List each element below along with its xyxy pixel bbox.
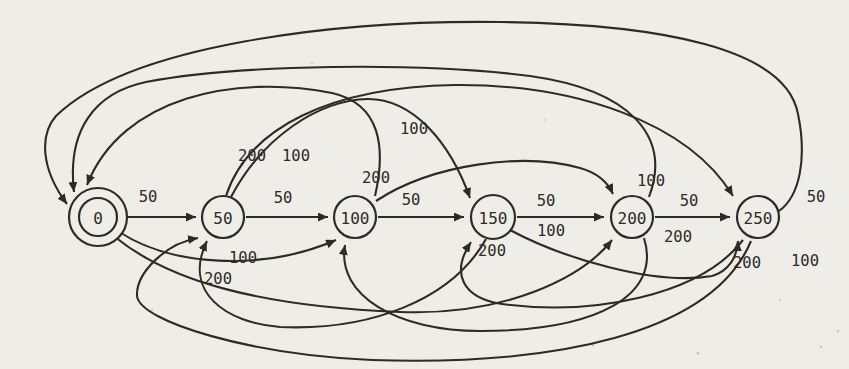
transition-50-100: 50 bbox=[246, 189, 328, 217]
transition-label-200-0: 100 bbox=[400, 120, 428, 138]
state-node-250: 250 bbox=[737, 196, 779, 238]
transition-0-50: 50 bbox=[128, 188, 196, 217]
transition-arrow-250-0 bbox=[45, 22, 802, 211]
state-label-250: 250 bbox=[744, 209, 773, 228]
transition-150-200: 50 bbox=[517, 192, 604, 217]
transition-label-100-0: 200 bbox=[362, 169, 390, 187]
transition-100-0: 200 bbox=[87, 87, 390, 196]
state-node-200: 200 bbox=[611, 196, 653, 238]
transition-label-150-200: 50 bbox=[537, 192, 556, 210]
state-label-0: 0 bbox=[93, 209, 103, 228]
state-label-50: 50 bbox=[213, 209, 232, 228]
state-label-100: 100 bbox=[341, 209, 370, 228]
state-node-150: 150 bbox=[471, 195, 515, 239]
paper-speck bbox=[544, 119, 546, 121]
paper-speck bbox=[696, 351, 699, 354]
transition-200-250: 50 bbox=[655, 192, 730, 217]
transition-label-100-150: 50 bbox=[402, 191, 421, 209]
transition-label-250-150: 200 bbox=[733, 254, 761, 272]
paper-speck bbox=[837, 330, 840, 333]
state-label-150: 150 bbox=[479, 209, 508, 228]
paper-speck bbox=[311, 62, 313, 64]
transition-label-50-100: 50 bbox=[274, 189, 293, 207]
transition-0-200: 200 bbox=[115, 237, 612, 312]
transition-arrow-50-150 bbox=[231, 99, 470, 198]
transition-label-50-250: 200 bbox=[238, 147, 266, 165]
transition-label-250-0: 50 bbox=[807, 188, 826, 206]
transition-50-150: 100 bbox=[231, 99, 470, 198]
scanned-state-diagram-page: 5050505050100200100200200100501001002002… bbox=[0, 0, 849, 369]
transition-arrow-0-200 bbox=[115, 237, 612, 312]
fsm-diagram-canvas: 5050505050100200100200200100501001002002… bbox=[0, 0, 849, 369]
state-node-100: 100 bbox=[334, 196, 376, 238]
state-node-0: 0 bbox=[69, 188, 127, 246]
transition-label-0-50: 50 bbox=[139, 188, 158, 206]
paper-speck bbox=[779, 299, 781, 301]
transition-label-0-200: 200 bbox=[204, 270, 232, 288]
state-label-200: 200 bbox=[618, 209, 647, 228]
paper-speck bbox=[151, 309, 153, 311]
transition-200-100: 200 bbox=[344, 228, 692, 331]
transition-label-0-100: 100 bbox=[229, 249, 257, 267]
transition-label-150-50: 200 bbox=[478, 242, 506, 260]
transition-label-50-150: 100 bbox=[282, 147, 310, 165]
transition-100-150: 50 bbox=[378, 191, 464, 217]
state-node-50: 50 bbox=[202, 196, 244, 238]
transition-label-150-250: 100 bbox=[537, 222, 565, 240]
transition-label-200-100: 200 bbox=[664, 228, 692, 246]
transition-label-200-250: 50 bbox=[680, 192, 699, 210]
paper-speck bbox=[820, 346, 822, 348]
transition-label-250-50: 100 bbox=[791, 252, 819, 270]
transition-label-100-200: 100 bbox=[637, 172, 665, 190]
transition-250-0: 50 bbox=[45, 22, 825, 211]
